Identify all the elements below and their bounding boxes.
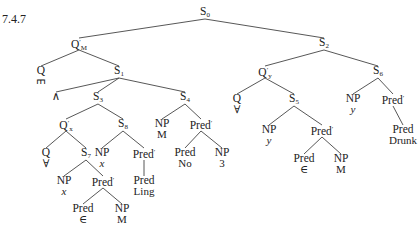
node-subscript: 6 [379,70,383,78]
tree-node-predin1: Pred∈ [72,203,93,225]
tree-node-and: ∧ [52,91,60,102]
node-terminal: M [155,129,170,140]
tree-node-s1: S1 [114,65,124,80]
node-terminal: ∈ [72,214,93,225]
node-prime: ′ [403,94,405,102]
node-subscript: 4 [186,96,190,104]
node-category: Pred [382,94,403,106]
tree-edge [123,131,144,148]
syntax-tree-figure: 7.4.7 S0Q′MS2Q∃S1∧S3S4Q′xS8NPMPred′Q∀S7N… [0,0,420,234]
tree-node-predin2: Pred∈ [293,153,314,175]
tree-edge [56,78,119,92]
tree-edges [0,0,420,234]
tree-node-s2: S2 [319,37,329,52]
tree-node-preddrunk: PredDrunk [389,124,417,146]
tree-node-s7: S7 [81,147,91,162]
tree-node-npx1: NPx [95,147,110,169]
node-terminal: ∃ [36,77,47,85]
node-terminal: Ling [133,186,154,197]
tree-node-qm: Q′M [71,37,87,54]
tree-node-s3: S3 [93,91,103,106]
tree-node-s0: S0 [200,6,210,21]
node-terminal: Drunk [389,135,417,146]
tree-node-s6: S6 [373,65,383,80]
tree-node-qa2: Q∀ [233,93,241,115]
node-subscript: 7 [87,152,91,160]
tree-edge [79,19,205,38]
node-prime: ′ [332,125,334,133]
node-terminal: x [57,186,72,197]
node-subscript: y [268,72,272,80]
tree-node-s8: S8 [118,118,128,133]
tree-node-npy2: NPy [262,124,277,146]
node-subscript: 3 [99,96,103,104]
node-terminal: ∈ [293,164,314,175]
tree-node-s4: S4 [180,91,190,106]
node-category: Pred [190,119,211,131]
tree-node-predling: PredLing [133,175,154,197]
tree-edge [66,104,98,119]
tree-node-pr3: Pred′ [92,175,115,188]
node-prime: ′ [211,119,213,127]
node-category: Pred [133,148,154,160]
node-category: ∧ [52,90,60,102]
tree-node-npm2: NPM [115,203,130,225]
node-subscript: 5 [295,98,299,106]
tree-node-qa1: Q∀ [42,147,50,169]
node-subscript: 0 [206,11,210,19]
tree-node-pr1: Pred′ [190,118,213,131]
tree-node-npx2: NPx [57,175,72,197]
tree-edge [265,50,324,66]
tree-node-pr5: Pred′ [311,124,334,137]
node-terminal: y [346,104,361,115]
node-terminal: x [95,158,110,169]
figure-label: 7.4.7 [2,12,26,27]
tree-node-predno: PredNo [174,147,195,169]
node-subscript: 1 [120,70,124,78]
node-category: Pred [311,125,332,137]
tree-edge [324,50,378,66]
node-terminal: M [115,214,130,225]
node-terminal: y [262,135,277,146]
tree-edge [205,19,324,38]
tree-edge [378,78,393,94]
tree-node-npm1: NPM [155,118,170,140]
node-terminal: ∀ [233,104,241,115]
tree-edge [294,106,322,125]
tree-node-pr4: Pred′ [382,93,405,106]
node-terminal: No [174,158,195,169]
tree-node-qy: Q′y [258,65,271,82]
node-subscript: 8 [124,123,128,131]
tree-node-npy1: NPy [346,93,361,115]
tree-node-qe: Q∃ [37,65,45,87]
node-category: Pred [92,176,113,188]
node-terminal: 3 [215,158,230,169]
node-subscript: x [69,125,73,133]
tree-edge [119,78,185,92]
node-category: Q [37,64,45,76]
node-terminal: ∀ [42,158,50,169]
node-terminal: M [334,164,349,175]
node-subscript: 2 [325,42,329,50]
node-prime: ′ [154,148,156,156]
tree-node-np3: NP3 [215,147,230,169]
tree-node-pr2: Pred′ [133,147,156,160]
tree-node-qx: Q′x [59,118,72,135]
tree-edge [185,104,201,119]
tree-node-s5: S5 [289,93,299,108]
node-prime: ′ [113,176,115,184]
node-subscript: M [81,44,87,52]
tree-node-npm3: NPM [334,153,349,175]
